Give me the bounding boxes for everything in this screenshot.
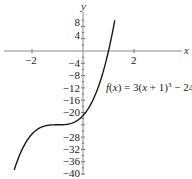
svg-text:8: 8	[75, 16, 81, 28]
svg-text:−32: −32	[63, 143, 80, 155]
x-tick-label: −2	[25, 54, 37, 66]
svg-text:−12: −12	[63, 82, 80, 94]
function-graph: x y −2 2 8 4 −4 −8 −12 −16 −20 −28 −32 −…	[0, 0, 192, 179]
x-axis-label: x	[183, 44, 189, 56]
y-tick-labels: 8 4 −4 −8 −12 −16 −20 −28 −32 −36 −40	[63, 16, 81, 179]
svg-text:−8: −8	[68, 69, 80, 81]
svg-text:−20: −20	[63, 106, 81, 118]
svg-text:−28: −28	[63, 131, 81, 143]
svg-text:−16: −16	[63, 94, 81, 106]
function-label: f(x) = 3(x + 1)3 − 24	[106, 81, 192, 94]
svg-text:−36: −36	[63, 155, 81, 167]
x-tick-label: 2	[131, 54, 137, 66]
svg-text:4: 4	[75, 29, 81, 41]
y-axis-label: y	[80, 0, 86, 12]
svg-text:−40: −40	[63, 167, 81, 179]
svg-text:−4: −4	[68, 57, 80, 69]
